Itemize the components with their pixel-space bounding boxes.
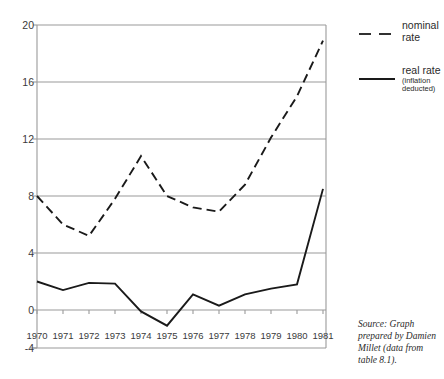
y-tick-label-0: 0 [4,305,34,316]
series-line-nominal-rate [37,41,323,236]
source-note: Source: Graph prepared by Damien Millet … [358,318,444,366]
legend-sublabel-deducted: deducted) [402,85,444,94]
legend-label-nominal-line1: nominal [402,20,444,32]
legend-text-nominal-rate: nominal rate [398,20,444,43]
legend-swatch-solid-line [358,69,398,83]
y-tick-label-12: 12 [4,134,34,145]
series-line-real-rate [37,189,323,326]
gridlines [37,25,326,310]
y-tick-label-8: 8 [4,191,34,202]
y-axis-tick-labels: 201612840-4 [0,0,34,379]
x-axis-tick-labels: 1970197119721973197419751976197719781979… [0,331,356,347]
chart-figure: 201612840-4 1970197119721973197419751976… [0,0,444,379]
legend-swatch-dashed-line [358,24,398,38]
plot-area: 201612840-4 1970197119721973197419751976… [0,0,356,379]
y-tick-label-16: 16 [4,77,34,88]
source-note-line-3: Millet (data from [358,342,444,354]
data-series [37,41,323,326]
x-tick-label-1981: 1981 [306,331,340,341]
legend-text-real-rate: real rate (inflation deducted) [398,65,444,94]
source-note-line-4: table 8.1). [358,354,444,366]
y-tick-label-20: 20 [4,20,34,31]
chart-canvas [0,0,356,379]
axes [30,25,326,348]
legend-label-real-rate: real rate [402,65,444,77]
legend-label-nominal-line2: rate [402,32,444,44]
source-note-line-2: prepared by Damien [358,330,444,342]
chart-legend: nominal rate real rate (inflation deduct… [358,20,444,116]
y-tick-label-4: 4 [4,248,34,259]
source-note-line-1: Source: Graph [358,318,444,330]
legend-item-real-rate: real rate (inflation deducted) [358,65,444,94]
legend-item-nominal-rate: nominal rate [358,20,444,43]
